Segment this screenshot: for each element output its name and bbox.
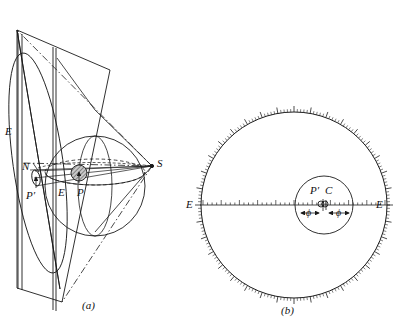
- caption-panel-b: (b): [281, 305, 294, 316]
- label-phi-right: ϕ: [336, 208, 341, 218]
- label-inner-pprime: P′: [310, 185, 319, 196]
- label-inner-c: C: [325, 185, 332, 196]
- label-equator-point: E: [58, 187, 65, 198]
- figure-container: E N P′ E P S E E P′ C ϕ ϕ (a) (b): [0, 0, 395, 331]
- label-projected-point: P′: [26, 190, 35, 201]
- caption-panel-a: (a): [82, 300, 95, 311]
- sphere-equator-front: [45, 172, 145, 185]
- label-plane-edge-left: E: [5, 126, 12, 137]
- label-phi-left: ϕ: [306, 208, 311, 218]
- label-surface-point: P: [77, 187, 84, 198]
- plane-axis-lines: [18, 33, 56, 311]
- label-axis-right-e: E: [376, 199, 383, 210]
- label-north-pole: N: [22, 161, 29, 172]
- label-south-pole: S: [157, 158, 163, 169]
- south-pole-dot: [150, 164, 153, 167]
- axis-scale-ticks: [203, 200, 385, 205]
- label-axis-left-e: E: [186, 199, 193, 210]
- panel-b-group: [195, 106, 393, 304]
- projection-cone-rays: [17, 30, 152, 302]
- figure-drawing: [0, 0, 395, 331]
